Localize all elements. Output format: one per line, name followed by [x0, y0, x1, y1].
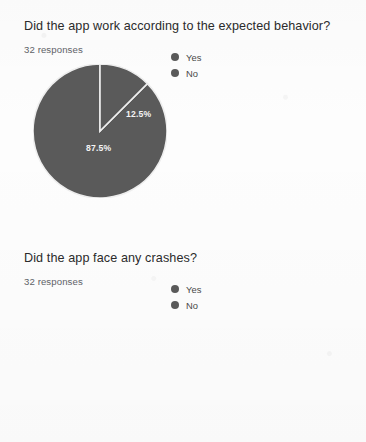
page-title: Did the app face any crashes? [24, 250, 197, 267]
chart-legend: Yes No [171, 50, 202, 82]
legend-item-yes[interactable]: Yes [171, 50, 202, 64]
legend-dot-icon [171, 53, 179, 61]
legend-item-no[interactable]: No [171, 66, 202, 80]
legend-item-yes[interactable]: Yes [171, 282, 202, 296]
legend-item-label: Yes [186, 284, 202, 295]
legend-item-label: No [186, 300, 198, 311]
pie-slice-label: 87.5% [86, 143, 112, 153]
legend-dot-icon [171, 285, 179, 293]
response-count-label: 32 responses [24, 275, 83, 288]
legend-dot-icon [171, 301, 179, 309]
chart-legend: Yes No [171, 282, 202, 314]
legend-item-label: No [186, 68, 198, 79]
page-title: Did the app work according to the expect… [24, 18, 330, 35]
legend-item-no[interactable]: No [171, 298, 202, 312]
pie-chart[interactable]: 87.5%12.5% [33, 64, 167, 198]
response-count-label: 32 responses [24, 43, 83, 56]
legend-item-label: Yes [186, 52, 202, 63]
pie-chart-svg: 87.5%12.5% [33, 64, 167, 198]
legend-dot-icon [171, 69, 179, 77]
pie-slice-label: 12.5% [126, 109, 152, 119]
